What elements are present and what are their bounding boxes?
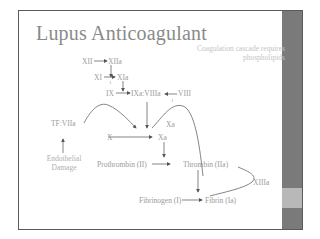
node-viii: VIII <box>178 89 191 98</box>
node-xiia: XIIa <box>108 57 122 66</box>
node-xia: XIa <box>117 73 128 82</box>
node-fibrin: Fibrin (Ia) <box>205 196 236 205</box>
node-xa-curve: Xa <box>166 120 175 129</box>
node-x: X <box>107 133 112 142</box>
node-ix: IX <box>106 89 114 98</box>
node-prothrombin: Prothrombin (II) <box>97 160 147 169</box>
marker-viii: 1 <box>171 96 174 105</box>
arrow-xiiia-curve <box>210 167 254 196</box>
node-xiiia: XIIIa <box>253 178 269 187</box>
node-xa: Xa <box>158 133 167 142</box>
arrow-tf-curve <box>84 104 136 128</box>
node-fibrinogen: Fibrinogen (I) <box>139 196 181 205</box>
node-endothelial-damage: Endothelial Damage <box>44 154 84 172</box>
node-ixa-viiia: IXa:VIIIa <box>131 89 161 98</box>
marker-xi: 1 <box>109 78 112 87</box>
node-thrombin: Thrombin (IIa) <box>183 160 228 169</box>
node-tf-viia: TF:VIIa <box>51 119 76 128</box>
node-xii: XII <box>82 57 92 66</box>
node-xi: XI <box>94 73 102 82</box>
